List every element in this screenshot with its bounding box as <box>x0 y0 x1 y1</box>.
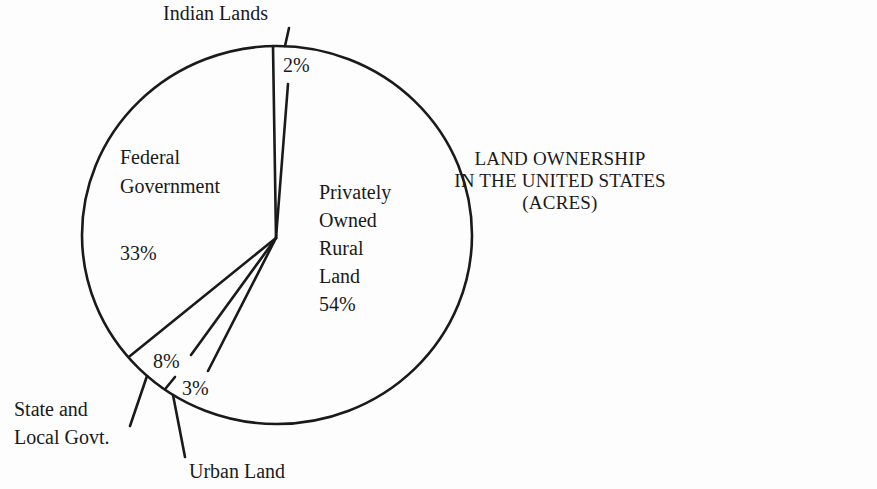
label-private-3: Rural <box>319 236 363 260</box>
title-line-3: (ACRES) <box>390 192 730 214</box>
label-indian-pct: 2% <box>283 53 310 77</box>
title-line-1: LAND OWNERSHIP <box>390 148 730 170</box>
label-private-1: Privately <box>319 180 391 204</box>
label-state-2: Local Govt. <box>14 425 110 449</box>
label-state-1: State and <box>14 397 88 421</box>
label-private-2: Owned <box>319 208 377 232</box>
slice-boundary-private <box>208 238 276 371</box>
label-indian-lands: Indian Lands <box>163 1 268 25</box>
label-federal-pct: 33% <box>120 241 157 265</box>
label-federal-2: Government <box>120 174 220 198</box>
label-private-4: Land <box>319 264 360 288</box>
title-line-2: IN THE UNITED STATES <box>390 170 730 192</box>
urban-state-divider <box>166 377 175 388</box>
leader-indian-lands <box>285 28 289 46</box>
leader-state-local <box>130 376 147 426</box>
slice-boundary-indian <box>276 84 288 238</box>
leader-urban-land <box>173 395 185 457</box>
slice-boundary-federal <box>273 46 276 238</box>
label-urban-land: Urban Land <box>189 459 285 483</box>
label-private-pct: 54% <box>319 292 356 316</box>
label-urban-pct: 3% <box>182 376 209 400</box>
chart-title: LAND OWNERSHIP IN THE UNITED STATES (ACR… <box>390 148 730 214</box>
label-federal-1: Federal <box>120 145 180 169</box>
label-state-pct: 8% <box>153 349 180 373</box>
